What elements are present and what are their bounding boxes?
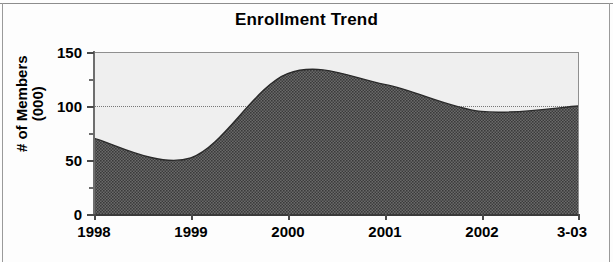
page-border-top [0, 3, 613, 4]
x-tick-label-2000: 2000 [243, 223, 333, 240]
y-tick-label-150: 150 [38, 44, 82, 61]
y-tick-label-50: 50 [38, 152, 82, 169]
x-tick-1999 [191, 214, 193, 220]
y-tick-50 [87, 160, 94, 162]
y-tick-100 [87, 106, 94, 108]
x-tick-label-2001: 2001 [340, 223, 430, 240]
x-tick-2001 [385, 214, 387, 220]
y-tick-label-100: 100 [38, 98, 82, 115]
chart-page: Enrollment Trend # of Members (000) 150 … [0, 0, 613, 262]
y-tick-25 [89, 187, 94, 189]
x-tick-label-2002: 2002 [437, 223, 527, 240]
area-series-enrollment [94, 52, 579, 215]
x-tick-label-1999: 1999 [146, 223, 236, 240]
x-tick-2000 [288, 214, 290, 220]
x-axis-line [93, 214, 579, 216]
y-tick-label-0: 0 [38, 206, 82, 223]
y-tick-125 [89, 79, 94, 81]
page-border-left [2, 3, 3, 262]
x-tick-1998 [94, 214, 96, 220]
x-tick-label-3-03: 3-03 [527, 223, 613, 240]
y-tick-75 [89, 133, 94, 135]
chart-title: Enrollment Trend [0, 10, 613, 30]
y-tick-0 [87, 214, 94, 216]
x-tick-2002 [482, 214, 484, 220]
area-path [94, 69, 578, 214]
x-tick-label-1998: 1998 [49, 223, 139, 240]
x-tick-3-03 [578, 214, 580, 220]
y-tick-150 [87, 52, 94, 54]
